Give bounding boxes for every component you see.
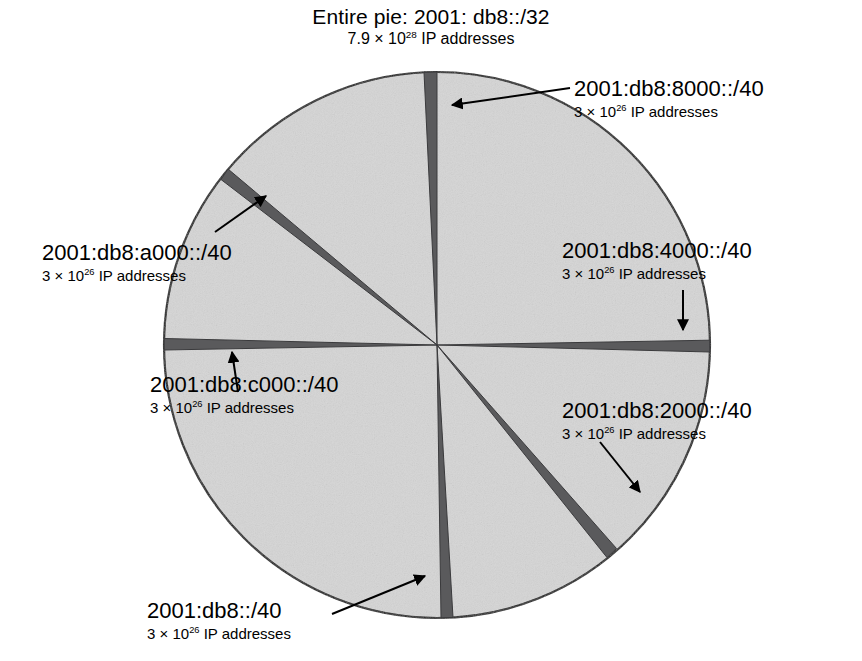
pie-chart-graphic — [0, 0, 862, 661]
pie-diagram-figure: Entire pie: 2001: db8::/32 7.9 × 1028 IP… — [0, 0, 862, 661]
